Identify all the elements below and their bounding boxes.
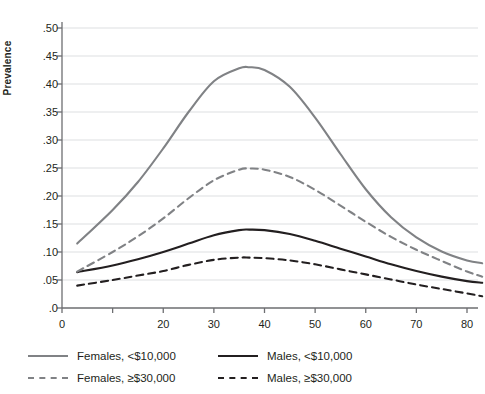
- y-axis-title: Prevalence: [2, 18, 13, 118]
- series-line: [77, 67, 482, 263]
- y-tick-label: .0: [22, 302, 58, 314]
- x-tick-label: 0: [42, 318, 82, 330]
- legend-label: Males, <$10,000: [267, 350, 352, 362]
- y-tick-label: .20: [22, 190, 58, 202]
- x-tick-label: 40: [245, 318, 285, 330]
- x-tick-marks: [62, 308, 467, 313]
- gridlines: [62, 28, 478, 280]
- y-axis-tick-labels: .0.05.10.15.20.25.30.35.40.45.50: [20, 0, 58, 394]
- data-curves: [77, 67, 482, 296]
- x-tick-label: 50: [295, 318, 335, 330]
- legend-item: Males, ≥$30,000: [218, 372, 408, 384]
- legend-label: Females, <$10,000: [77, 350, 176, 362]
- series-line: [77, 168, 482, 276]
- x-tick-label: 70: [396, 318, 436, 330]
- y-tick-label: .05: [22, 274, 58, 286]
- x-tick-label: 80: [447, 318, 485, 330]
- chart-legend: Females, <$10,000Males, <$10,000Females,…: [28, 345, 468, 389]
- legend-label: Females, ≥$30,000: [77, 372, 175, 384]
- legend-item: Females, ≥$30,000: [28, 372, 218, 384]
- x-tick-label: 20: [143, 318, 183, 330]
- y-tick-label: .15: [22, 218, 58, 230]
- x-tick-label: 30: [194, 318, 234, 330]
- y-tick-label: .45: [22, 50, 58, 62]
- legend-item: Males, <$10,000: [218, 350, 408, 362]
- legend-label: Males, ≥$30,000: [267, 372, 352, 384]
- chart-figure: Prevalence .0.05.10.15.20.25.30.35.40.45…: [0, 0, 485, 394]
- y-tick-label: .50: [22, 22, 58, 34]
- legend-item: Females, <$10,000: [28, 350, 218, 362]
- x-tick-label: 60: [346, 318, 386, 330]
- chart-plot-area: [0, 0, 485, 394]
- y-tick-label: .25: [22, 162, 58, 174]
- y-tick-label: .30: [22, 134, 58, 146]
- y-tick-label: .35: [22, 106, 58, 118]
- y-tick-label: .40: [22, 78, 58, 90]
- series-line: [77, 257, 482, 296]
- y-tick-label: .10: [22, 246, 58, 258]
